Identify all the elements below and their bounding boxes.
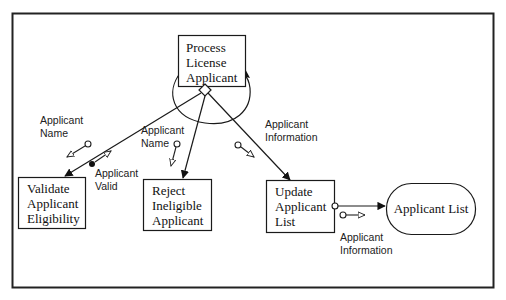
datastore-applicant-list[interactable]: Applicant List xyxy=(387,184,476,235)
module-reject-ineligible-applicant[interactable]: Reject Ineligible Applicant xyxy=(144,180,212,231)
datastore-label: Applicant List xyxy=(394,201,469,216)
module-label: Applicant xyxy=(152,213,204,228)
couple-label: Valid xyxy=(95,180,118,192)
module-label: Process xyxy=(186,40,226,55)
module-validate-applicant-eligibility[interactable]: Validate Applicant Eligibility xyxy=(19,178,86,229)
module-label: Applicant xyxy=(275,199,327,214)
module-label: Reject xyxy=(152,183,186,198)
data-couple-validate-in: Applicant Name xyxy=(40,114,91,157)
data-couple-update-in: Applicant Information xyxy=(235,118,318,157)
module-label: List xyxy=(275,214,296,229)
couple-label: Applicant xyxy=(340,231,383,243)
data-couple-reject-in: Applicant Name xyxy=(141,124,184,166)
module-process-license-applicant[interactable]: Process License Applicant xyxy=(179,36,246,87)
couple-label: Information xyxy=(265,131,318,143)
couple-label: Information xyxy=(340,244,393,256)
couple-label: Applicant xyxy=(40,114,83,126)
data-couple-store-out: Applicant Information xyxy=(340,212,393,256)
module-label: Validate xyxy=(27,181,70,196)
module-update-applicant-list[interactable]: Update Applicant List xyxy=(267,181,335,233)
call-line-reject xyxy=(183,96,205,178)
module-label: Eligibility xyxy=(27,211,80,226)
connector-circle-icon xyxy=(332,203,338,209)
couple-label: Applicant xyxy=(141,124,184,136)
couple-label: Name xyxy=(141,137,169,149)
module-label: Applicant xyxy=(186,70,238,85)
diagram-frame xyxy=(13,14,494,288)
module-label: Update xyxy=(275,184,313,199)
couple-label: Applicant xyxy=(95,167,138,179)
structure-chart-diagram: Process License Applicant Validate Appli… xyxy=(0,0,506,300)
module-label: License xyxy=(186,55,227,70)
module-label: Applicant xyxy=(27,196,79,211)
module-label: Ineligible xyxy=(152,198,202,213)
couple-label: Applicant xyxy=(265,118,308,130)
couple-label: Name xyxy=(40,127,68,139)
